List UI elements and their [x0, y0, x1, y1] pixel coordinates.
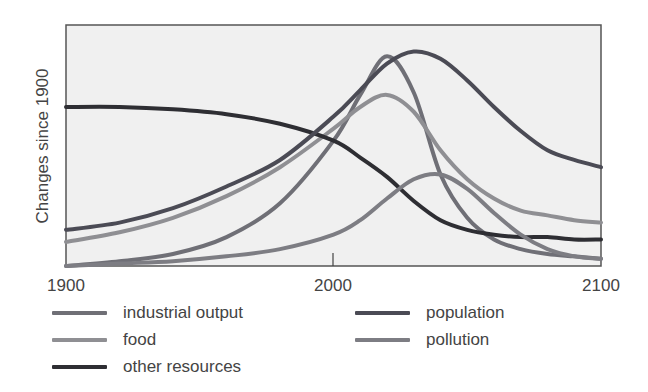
legend-label: pollution [426, 330, 489, 350]
legend-swatch-industrial-output [52, 311, 107, 315]
legend-item-pollution: pollution [355, 329, 489, 351]
legend-item-industrial-output: industrial output [52, 302, 243, 324]
legend: industrial output food other resources p… [0, 0, 648, 392]
legend-swatch-other-resources [52, 365, 107, 369]
legend-item-other-resources: other resources [52, 356, 241, 378]
legend-swatch-population [355, 311, 410, 315]
legend-label: population [426, 303, 504, 323]
legend-label: industrial output [123, 303, 243, 323]
legend-item-food: food [52, 329, 156, 351]
legend-label: other resources [123, 357, 241, 377]
legend-item-population: population [355, 302, 504, 324]
legend-label: food [123, 330, 156, 350]
legend-swatch-food [52, 338, 107, 342]
legend-swatch-pollution [355, 338, 410, 342]
